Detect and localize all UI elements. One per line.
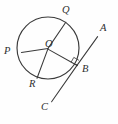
point-label-a: A [100, 23, 106, 34]
radius-o-b [48, 49, 76, 65]
geometry-canvas [0, 0, 118, 124]
point-label-c: C [41, 102, 48, 113]
geometry-figure: Q P O R B A C [0, 0, 118, 124]
point-label-o: O [45, 39, 53, 50]
point-label-q: Q [62, 5, 70, 16]
point-label-p: P [4, 46, 10, 57]
chord-q-r [37, 22, 66, 78]
point-label-r: R [29, 79, 35, 90]
radius-p-o [21, 48, 48, 52]
vertex-dot-b [76, 64, 78, 66]
point-label-b: B [82, 64, 88, 75]
tangent-line-a-c [52, 37, 98, 102]
